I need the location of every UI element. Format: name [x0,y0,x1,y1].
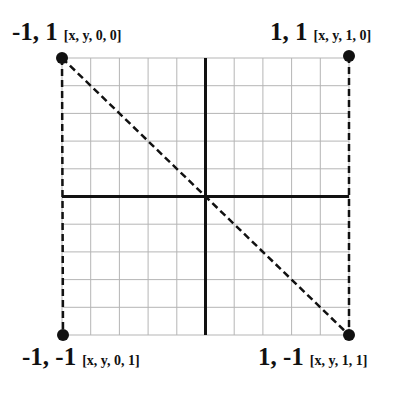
coord-text: -1, -1 [22,343,76,370]
coord-text: -1, 1 [12,18,58,45]
label-top-left: -1, 1[x, y, 0, 0] [12,18,121,46]
corner-dot-bottom-left [57,329,69,341]
corner-dot-bottom-right [343,329,355,341]
coord-text: 1, -1 [258,343,304,370]
tuple-text: [x, y, 0, 1] [82,353,140,368]
coordinate-grid-diagram [0,0,412,393]
label-bottom-left: -1, -1[x, y, 0, 1] [22,343,140,371]
corner-dot-top-left [56,52,68,64]
tuple-text: [x, y, 0, 0] [64,28,122,43]
label-bottom-right: 1, -1[x, y, 1, 1] [258,343,367,371]
tuple-text: [x, y, 1, 1] [310,353,368,368]
corner-dot-top-right [343,50,355,62]
tuple-text: [x, y, 1, 0] [314,28,372,43]
coord-text: 1, 1 [270,18,308,45]
label-top-right: 1, 1[x, y, 1, 0] [270,18,371,46]
